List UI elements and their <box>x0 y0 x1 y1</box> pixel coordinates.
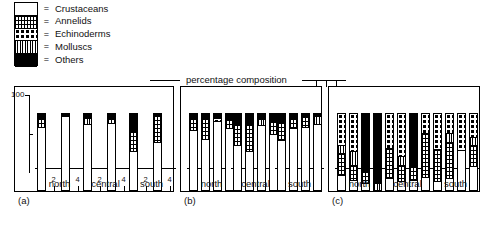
header-rule-right <box>302 80 346 81</box>
bar-segment-echinoderms <box>470 114 477 138</box>
bar-segment-echinoderms <box>338 114 345 146</box>
legend-swatch-column <box>14 2 38 66</box>
legend: =Crustaceans=Annelids=Echinoderms=Mollus… <box>14 2 164 68</box>
legend-item: =Annelids <box>42 15 162 27</box>
legend-item: =Crustaceans <box>42 3 162 15</box>
bar-segment-annelids <box>446 143 453 179</box>
bar-segment-annelids <box>338 154 345 177</box>
legend-vertical-hatch-swatch <box>15 41 37 54</box>
bar-segment-annelids <box>154 116 161 143</box>
bar-segment-others <box>234 114 241 125</box>
panel-b: 1234north1234central1234south <box>180 86 322 192</box>
figure-canvas: =Crustaceans=Annelids=Echinoderms=Mollus… <box>0 0 488 232</box>
bar-segment-echinoderms <box>422 114 429 134</box>
header-text: percentage composition <box>186 74 287 85</box>
bar-segment-annelids <box>434 150 441 182</box>
bar-segment-annelids <box>386 149 393 179</box>
bar-segment-others <box>374 114 381 184</box>
group-label-south: south <box>269 179 330 189</box>
bar-segment-annelids <box>278 123 285 141</box>
header-stem-2 <box>326 80 327 87</box>
legend-equals-icon: = <box>42 4 51 13</box>
panel-c-label: (c) <box>332 196 343 206</box>
group-label-south: south <box>121 179 182 189</box>
legend-item-label: Annelids <box>55 16 91 26</box>
panel-a: 1001234north1234central1234south <box>14 86 174 192</box>
bar-segment-molluscs <box>350 152 357 166</box>
bar-segment-annelids <box>246 125 253 152</box>
bar-segment-annelids <box>226 120 233 129</box>
bar-segment-others <box>362 114 369 172</box>
bar-segment-annelids <box>270 122 277 136</box>
legend-equals-icon: = <box>42 55 51 64</box>
bar-segment-others <box>246 114 253 125</box>
y-axis-tick-mid <box>29 134 33 135</box>
group-label-south: south <box>425 179 486 189</box>
bar-segment-annelids <box>290 119 297 130</box>
legend-item: =Molluscs <box>42 41 162 53</box>
legend-dotted-swatch <box>15 29 37 42</box>
bar-segment-annelids <box>38 119 45 128</box>
bar-segment-others <box>270 114 277 122</box>
legend-equals-icon: = <box>42 17 51 26</box>
legend-white-swatch <box>15 3 37 16</box>
bar-segment-annelids <box>470 146 477 167</box>
bar-segment-others <box>278 114 285 123</box>
legend-item: =Echinoderms <box>42 28 162 40</box>
legend-item-label: Echinoderms <box>55 29 110 39</box>
bar-segment-echinoderms <box>458 114 465 151</box>
bar-segment-annelids <box>422 134 429 178</box>
bar-segment-echinoderms <box>350 114 357 152</box>
bar-segment-others <box>410 114 417 167</box>
bar-segment-molluscs <box>314 117 321 125</box>
legend-fine-grid-swatch <box>15 16 37 29</box>
legend-item: =Others <box>42 54 162 66</box>
legend-black-swatch <box>15 54 37 67</box>
panel-a-plot: 1001234north1234central1234south <box>15 87 173 191</box>
bar-segment-echinoderms <box>386 114 393 149</box>
bar-segment-annelids <box>202 119 209 140</box>
bar-segment-others <box>130 114 137 132</box>
bar-segment-molluscs <box>338 146 345 154</box>
legend-item-label: Molluscs <box>55 42 92 52</box>
panel-c: 1234north1234central1234south <box>328 86 480 192</box>
bar-segment-echinoderms <box>398 114 405 157</box>
bar-segment-annelids <box>190 119 197 131</box>
bar-segment-annelids <box>130 132 137 152</box>
panel-b-plot: 1234north1234central1234south <box>181 87 321 191</box>
header-rule-left <box>150 80 180 81</box>
bar-segment-annelids <box>234 125 241 146</box>
legend-item-label: Others <box>55 55 84 65</box>
bar-segment-molluscs <box>398 157 405 166</box>
legend-equals-icon: = <box>42 30 51 39</box>
bar-segment-echinoderms <box>434 114 441 150</box>
bar-segment-molluscs <box>446 134 453 143</box>
panel-a-label: (a) <box>18 196 30 206</box>
legend-rows: =Crustaceans=Annelids=Echinoderms=Mollus… <box>42 2 162 66</box>
bar-segment-echinoderms <box>446 114 453 134</box>
legend-item-label: Crustaceans <box>55 4 108 14</box>
panel-c-plot: 1234north1234central1234south <box>329 87 479 191</box>
y-axis-tick-100 <box>25 95 30 96</box>
legend-equals-icon: = <box>42 42 51 51</box>
bar-segment-annelids <box>302 117 309 128</box>
panel-b-label: (b) <box>184 196 196 206</box>
y-axis-label-100: 100 <box>11 91 24 99</box>
bar-segment-molluscs <box>470 138 477 146</box>
